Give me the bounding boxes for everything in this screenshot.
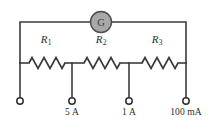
terminal-label-range-1a: 1 A — [122, 107, 136, 117]
wire-top-left — [20, 22, 91, 63]
resistor-label-r1: R1 — [41, 33, 51, 45]
resistor-r1-zigzag — [29, 58, 65, 69]
terminal-range-1a[interactable] — [126, 98, 132, 104]
wire-top-right — [112, 22, 187, 63]
terminal-label-range-5a: 5 A — [65, 107, 79, 117]
terminal-range-5a[interactable] — [69, 98, 75, 104]
galvanometer-label: G — [97, 17, 105, 28]
terminal-label-range-100ma: 100 mA — [170, 107, 201, 117]
resistor-r3-zigzag — [142, 58, 178, 69]
resistor-label-r3-subscript: 3 — [159, 38, 163, 47]
resistor-label-r2: R2 — [96, 33, 106, 45]
terminal-range-100ma[interactable] — [183, 98, 189, 104]
resistor-label-r2-subscript: 2 — [103, 38, 107, 47]
resistor-label-r3: R3 — [152, 33, 162, 45]
circuit-schematic-svg: G — [0, 0, 209, 124]
resistor-r2-zigzag — [84, 58, 120, 69]
terminal-common[interactable] — [17, 98, 23, 104]
circuit-diagram: G R1 R2 R3 5 A 1 A 100 mA — [0, 0, 209, 124]
resistor-label-r2-letter: R — [96, 33, 103, 45]
resistor-label-r1-subscript: 1 — [48, 38, 52, 47]
resistor-label-r1-letter: R — [41, 33, 48, 45]
resistor-label-r3-letter: R — [152, 33, 159, 45]
